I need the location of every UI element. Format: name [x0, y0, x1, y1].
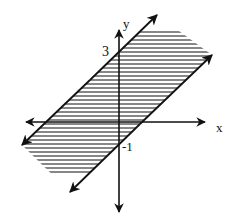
coordinate-graph [0, 0, 233, 224]
y-intercept-label-upper: 3 [102, 45, 109, 59]
lower-boundary-line [70, 124, 140, 192]
y-intercept-label-lower: -1 [122, 140, 133, 153]
shaded-region [0, 32, 233, 172]
x-axis-label: x [216, 121, 223, 134]
lower-boundary-line [140, 55, 212, 124]
y-axis-label: y [123, 17, 130, 30]
